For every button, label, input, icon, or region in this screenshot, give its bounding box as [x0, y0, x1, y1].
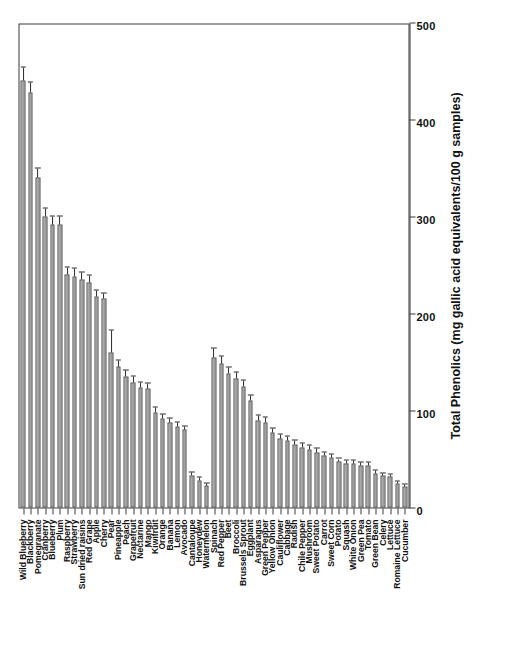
bar-item: [255, 22, 260, 507]
bar-item: [219, 22, 224, 507]
category-tick: [250, 508, 251, 514]
category-tick: [155, 508, 156, 514]
category-tick: [177, 508, 178, 514]
error-bar-cap: [145, 382, 150, 383]
bar-rect: [175, 426, 180, 507]
error-bar-cap: [130, 375, 135, 376]
bar-item: [204, 22, 209, 507]
category-tick: [125, 508, 126, 514]
error-bar-cap: [27, 81, 32, 82]
error-bar-cap: [115, 359, 120, 360]
category-tick: [169, 508, 170, 514]
error-bar-cap: [86, 274, 91, 275]
bar-item: [116, 22, 121, 507]
error-bar-line: [257, 415, 258, 420]
error-bar-line: [250, 395, 251, 400]
category-tick: [243, 508, 244, 514]
error-bar-line: [147, 383, 148, 388]
bar-item: [402, 22, 407, 507]
error-bar-cap: [174, 421, 179, 422]
category-tick: [45, 508, 46, 514]
error-bar-cap: [321, 451, 326, 452]
category-tick: [404, 508, 405, 514]
value-tick: [409, 22, 415, 23]
category-tick: [199, 508, 200, 514]
bar-item: [241, 22, 246, 507]
bar-rect: [42, 216, 47, 507]
bar-item: [145, 22, 150, 507]
error-bar-cap: [402, 483, 407, 484]
error-bar-line: [162, 414, 163, 418]
bar-rect: [314, 452, 319, 507]
value-tick: [409, 410, 415, 411]
bar-item: [387, 22, 392, 507]
category-label-slot: Nectarine: [138, 517, 142, 663]
bar-rect: [123, 376, 128, 507]
bar-item: [395, 22, 400, 507]
value-axis-line: [409, 23, 410, 508]
bar-item: [336, 22, 341, 507]
category-tick: [390, 508, 391, 514]
bar-item: [314, 22, 319, 507]
bar-rect: [189, 475, 194, 507]
error-bar-line: [37, 168, 38, 177]
bar-rect: [387, 476, 392, 507]
category-tick: [103, 508, 104, 514]
error-bar-cap: [211, 347, 216, 348]
bar-rect: [160, 418, 165, 507]
error-bar-cap: [123, 369, 128, 370]
bar-rect: [395, 483, 400, 507]
bar-rect: [64, 274, 69, 507]
error-bar-cap: [262, 416, 267, 417]
category-tick: [74, 508, 75, 514]
value-tick: [409, 119, 415, 120]
bar-item: [35, 22, 40, 507]
bar-item: [365, 22, 370, 507]
category-label-slot: Cherry: [101, 517, 105, 663]
category-tick: [353, 508, 354, 514]
category-tick: [89, 508, 90, 514]
bar-rect: [292, 444, 297, 507]
bar-rect: [145, 388, 150, 507]
category-label-slot: Avocado: [182, 517, 186, 663]
category-tick: [133, 508, 134, 514]
bar-item: [285, 22, 290, 507]
bar-rect: [153, 412, 158, 507]
category-label-slot: Pineapple: [116, 517, 120, 663]
bar-rect: [204, 485, 209, 507]
error-bar-cap: [343, 460, 348, 461]
error-bar-cap: [247, 395, 252, 396]
bar-series: [19, 23, 408, 507]
error-bar-cap: [255, 414, 260, 415]
bar-item: [263, 22, 268, 507]
bar-rect: [270, 432, 275, 507]
bar-item: [197, 22, 202, 507]
error-bar-cap: [225, 366, 230, 367]
error-bar-line: [264, 417, 265, 422]
bar-item: [226, 22, 231, 507]
bar-item: [248, 22, 253, 507]
category-tick: [111, 508, 112, 514]
error-bar-cap: [387, 473, 392, 474]
bar-rect: [299, 447, 304, 507]
error-bar-cap: [380, 472, 385, 473]
error-bar-cap: [101, 292, 106, 293]
category-tick: [346, 508, 347, 514]
error-bar-cap: [71, 268, 76, 269]
bar-item: [86, 22, 91, 507]
bar-item: [299, 22, 304, 507]
bar-item: [182, 22, 187, 507]
value-tick: [409, 216, 415, 217]
error-bar-cap: [203, 482, 208, 483]
category-label-slot: Yellow Onion: [270, 517, 274, 663]
bar-item: [20, 22, 25, 507]
chart-figure: 0100200300400500 Wild BlueberryBlackberr…: [0, 0, 522, 663]
bar-item: [64, 22, 69, 507]
error-bar-cap: [152, 406, 157, 407]
bar-item: [373, 22, 378, 507]
bar-item: [277, 22, 282, 507]
bar-item: [292, 22, 297, 507]
rotated-chart-container: 0100200300400500 Wild BlueberryBlackberr…: [0, 0, 522, 663]
category-label-slot: Romaine Lettuce: [395, 517, 399, 663]
error-bar-cap: [284, 435, 289, 436]
